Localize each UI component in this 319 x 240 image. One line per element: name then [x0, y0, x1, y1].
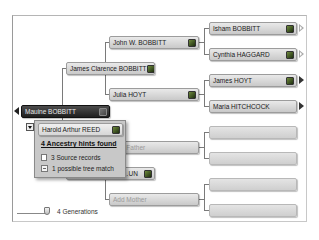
person-name: James Clarence BOBBITT [70, 65, 147, 72]
leaf-hint-icon[interactable] [188, 91, 196, 99]
back-arrow-icon[interactable] [14, 107, 19, 115]
leaf-hint-icon[interactable] [286, 51, 294, 59]
connector [204, 28, 205, 55]
leaf-hint-icon[interactable] [147, 65, 155, 73]
person-node-cynthia-haggard[interactable]: Cynthia HAGGARD [209, 48, 297, 61]
tree-match-hint[interactable]: 1 possible tree match [41, 165, 114, 172]
tree-match-label: 1 possible tree match [52, 165, 114, 172]
connector [204, 184, 205, 211]
connector [204, 132, 205, 159]
leaf-hint-icon[interactable] [188, 39, 196, 47]
person-node-james-clarence-bobbitt[interactable]: James Clarence BOBBITT [66, 62, 155, 75]
person-name: Mauine BOBBITT [25, 108, 99, 115]
connector [204, 80, 205, 107]
expand-arrow-icon[interactable] [299, 76, 304, 84]
person-node-maria-hitchcock[interactable]: Maria HITCHCOCK [209, 100, 297, 113]
source-records-hint[interactable]: 3 Source records [41, 154, 101, 161]
empty-person-slot[interactable] [209, 178, 297, 191]
ancestry-hints-popup: Harold Arthur REED 4 Ancestry hints foun… [34, 120, 126, 178]
person-name: Julia HOYT [113, 91, 188, 98]
source-records-label: 3 Source records [51, 154, 101, 161]
person-node-james-hoyt[interactable]: James HOYT [209, 74, 297, 87]
spouse-name: Harold Arthur REED [42, 126, 112, 133]
expand-arrow-icon[interactable] [299, 102, 304, 110]
person-node-root-mauine-bobbitt[interactable]: Mauine BOBBITT [21, 105, 110, 118]
person-name: James HOYT [213, 77, 286, 84]
person-name: Cynthia HAGGARD [213, 51, 286, 58]
tree-match-icon [41, 165, 48, 172]
add-mother-label: Add Mother [113, 196, 198, 203]
person-node-isham-bobbitt[interactable]: Isham BOBBITT [209, 22, 297, 35]
empty-person-slot[interactable] [209, 152, 297, 165]
person-node-john-w-bobbitt[interactable]: John W. BOBBITT [109, 36, 199, 49]
add-mother-button[interactable]: Add Mother [109, 193, 199, 206]
expand-arrow-icon[interactable] [299, 24, 304, 32]
spouse-node-harold-arthur-reed[interactable]: Harold Arthur REED [38, 123, 123, 136]
person-name: John W. BOBBITT [113, 39, 188, 46]
person-name: Maria HITCHCOCK [213, 103, 296, 110]
generations-label: 4 Generations [57, 208, 98, 215]
empty-person-slot[interactable] [209, 204, 297, 217]
leaf-hint-icon[interactable] [286, 25, 294, 33]
leaf-hint-icon[interactable] [112, 126, 120, 134]
leaf-hint-icon[interactable] [286, 77, 294, 85]
expand-arrow-icon[interactable] [299, 50, 304, 58]
person-name: Isham BOBBITT [213, 25, 286, 32]
generations-slider-thumb[interactable] [44, 207, 50, 215]
leaf-hint-icon[interactable] [144, 170, 152, 178]
document-icon [41, 154, 47, 161]
hints-found-link[interactable]: 4 Ancestry hints found [41, 140, 117, 147]
generations-slider-track[interactable] [17, 213, 45, 214]
person-node-julia-hoyt[interactable]: Julia HOYT [109, 88, 199, 101]
empty-person-slot[interactable] [209, 126, 297, 139]
leaf-hint-icon[interactable] [99, 108, 107, 116]
spouse-dropdown-button[interactable] [26, 123, 34, 131]
